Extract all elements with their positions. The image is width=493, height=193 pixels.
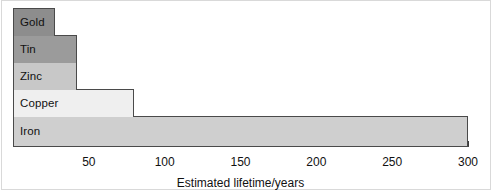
x-tick-label-250: 250 (382, 156, 402, 168)
bar-label-gold: Gold (14, 17, 45, 29)
bar-label-iron: Iron (14, 126, 40, 138)
bar-label-copper: Copper (14, 98, 58, 110)
chart-figure: GoldTinZincCopperIron50100150200250300 E… (0, 0, 493, 193)
x-tick-label-150: 150 (230, 156, 250, 168)
x-tick-300 (468, 141, 469, 146)
x-tick-label-100: 100 (155, 156, 175, 168)
bar-gold: Gold (13, 8, 55, 36)
x-tick-label-50: 50 (82, 156, 95, 168)
x-axis-label: Estimated lifetime/years (177, 177, 304, 189)
x-tick-label-200: 200 (306, 156, 326, 168)
bar-tin: Tin (13, 35, 77, 63)
bar-copper: Copper (13, 89, 134, 117)
x-tick-label-300: 300 (458, 156, 478, 168)
bar-zinc: Zinc (13, 62, 77, 90)
bar-iron: Iron (13, 116, 468, 147)
bar-label-tin: Tin (14, 44, 36, 56)
plot-area: GoldTinZincCopperIron50100150200250300 (0, 0, 493, 193)
bar-label-zinc: Zinc (14, 71, 42, 83)
